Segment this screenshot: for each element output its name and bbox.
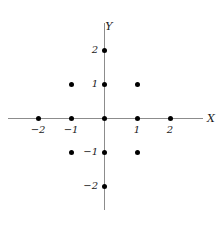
data-point — [69, 116, 74, 121]
data-point — [69, 150, 74, 155]
data-point — [135, 82, 140, 87]
data-point — [102, 150, 107, 155]
data-point — [102, 48, 107, 53]
data-point — [102, 116, 107, 121]
x-axis-label: X — [207, 113, 215, 124]
data-point — [135, 150, 140, 155]
y-tick-label: −2 — [83, 181, 98, 191]
y-axis-label: Y — [105, 21, 112, 32]
x-tick-label: 1 — [134, 125, 140, 135]
data-point — [102, 82, 107, 87]
coordinate-plane-figure: −2−11221−1−2 X Y — [0, 0, 219, 229]
y-tick-label: −1 — [83, 147, 98, 157]
data-point — [135, 116, 140, 121]
x-tick-label: 2 — [167, 125, 173, 135]
data-point — [36, 116, 41, 121]
x-tick-label: −2 — [31, 125, 46, 135]
x-tick-label: −1 — [64, 125, 79, 135]
data-point — [102, 184, 107, 189]
y-tick-label: 1 — [92, 79, 98, 89]
data-point — [168, 116, 173, 121]
data-point — [69, 82, 74, 87]
y-tick-label: 2 — [92, 45, 98, 55]
